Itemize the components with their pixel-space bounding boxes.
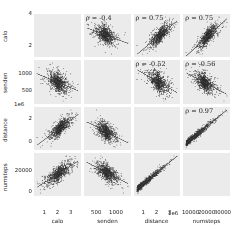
- x-tick-numsteps-30000: 30000: [214, 209, 231, 215]
- panel-calo-senden: ρ = -0.4: [84, 14, 131, 57]
- correlation-label-calo-numsteps: ρ = 0.75: [185, 14, 213, 22]
- x-ticks-calo: 1 2 3: [34, 209, 81, 216]
- correlation-label-senden-distance: ρ = -0.52: [136, 60, 166, 68]
- y-axis-label-senden: senden: [2, 61, 13, 105]
- x-axis-label-numsteps: numsteps: [183, 218, 230, 224]
- panel-numsteps-distance: [134, 153, 181, 196]
- panel-numsteps-calo: [34, 153, 81, 196]
- y-axis-label-numsteps: numsteps: [2, 155, 13, 199]
- panel-distance-distance: [134, 107, 181, 150]
- correlation-label-senden-numsteps: ρ = -0.56: [185, 60, 215, 68]
- y-tick-distance-2: 2: [29, 115, 32, 121]
- correlation-label-calo-distance: ρ = 0.75: [136, 14, 164, 22]
- y-tick-numsteps-20000: 20000: [15, 167, 32, 173]
- x-ticks-numsteps: 10000 20000 30000: [183, 209, 230, 216]
- panel-senden-senden: [84, 60, 131, 103]
- y-tick-calo-4: 4: [29, 10, 32, 16]
- panel-senden-numsteps: ρ = -0.56: [183, 60, 230, 103]
- y-tick-senden-500: 500: [22, 87, 32, 93]
- y-tick-numsteps-0: 0: [29, 188, 32, 194]
- x-tick-numsteps-10000: 10000: [182, 209, 199, 215]
- panel-distance-numsteps: ρ = 0.97: [183, 107, 230, 150]
- y-tick-distance-0: 0: [29, 138, 32, 144]
- panel-distance-calo: [34, 107, 81, 150]
- scatter-matrix-figure: ρ = -0.4 ρ = 0.75 ρ = 0.75 ρ = -0.52 ρ =…: [0, 0, 235, 230]
- x-tick-calo-3: 3: [69, 209, 72, 215]
- correlation-label-calo-senden: ρ = -0.4: [86, 14, 112, 22]
- y-ticks-calo: 2 4: [13, 14, 33, 58]
- x-ticks-senden: 500 1000: [84, 209, 131, 216]
- x-axis-label-senden: senden: [84, 218, 131, 224]
- y-axis-label-distance: distance: [2, 108, 13, 152]
- x-axis-label-calo: calo: [34, 218, 81, 224]
- x-tick-numsteps-20000: 20000: [198, 209, 215, 215]
- y-ticks-distance: 0 2: [13, 108, 33, 152]
- y-tick-senden-1000: 1000: [18, 70, 32, 76]
- correlation-label-distance-numsteps: ρ = 0.97: [185, 107, 213, 115]
- y-ticks-numsteps: 0 20000: [13, 155, 33, 199]
- pairplot-grid: ρ = -0.4 ρ = 0.75 ρ = 0.75 ρ = -0.52 ρ =…: [34, 14, 230, 196]
- x-tick-senden-500: 500: [91, 209, 101, 215]
- x-tick-senden-1000: 1000: [109, 209, 123, 215]
- panel-numsteps-numsteps: [183, 153, 230, 196]
- panel-calo-calo: [34, 14, 81, 57]
- panel-calo-numsteps: ρ = 0.75: [183, 14, 230, 57]
- panel-distance-senden: [84, 107, 131, 150]
- panel-numsteps-senden: [84, 153, 131, 196]
- panel-senden-distance: ρ = -0.52: [134, 60, 181, 103]
- x-exponent-distance: 1e6: [168, 210, 178, 216]
- x-tick-calo-2: 2: [56, 209, 59, 215]
- x-axis-label-distance: distance: [133, 218, 180, 224]
- x-tick-distance-2: 2: [155, 209, 158, 215]
- y-ticks-senden: 500 1000: [13, 61, 33, 105]
- y-tick-calo-2: 2: [29, 42, 32, 48]
- x-tick-calo-1: 1: [43, 209, 46, 215]
- y-exponent-distance: 1e6: [14, 101, 24, 107]
- panel-senden-calo: [34, 60, 81, 103]
- y-axis-label-calo: calo: [2, 14, 13, 58]
- panel-calo-distance: ρ = 0.75: [134, 14, 181, 57]
- x-tick-distance-1: 1: [142, 209, 145, 215]
